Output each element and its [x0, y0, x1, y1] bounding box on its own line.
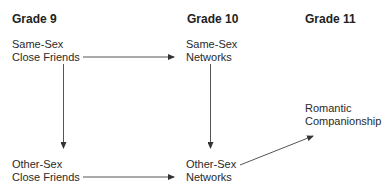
arrow-os-networks-to-romantic [240, 136, 313, 165]
edges-layer [0, 0, 388, 188]
